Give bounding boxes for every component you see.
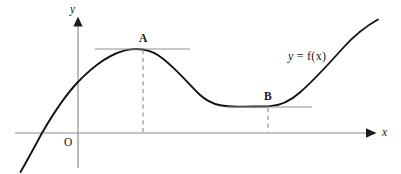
y-axis-label: y [70, 4, 75, 16]
point-label-a: A [139, 33, 148, 45]
point-label-b: B [264, 91, 272, 103]
origin-label: O [64, 137, 72, 149]
function-label-expression: f(x) [307, 49, 327, 63]
function-label-equals: = [294, 49, 307, 63]
function-graph-figure: y x O A B y=f(x) [0, 0, 401, 174]
function-curve [21, 20, 379, 173]
function-label-y: y [288, 49, 294, 63]
y-axis-arrowhead [73, 17, 82, 27]
function-equation-label: y=f(x) [288, 50, 327, 62]
x-axis-arrowhead [366, 128, 377, 138]
x-axis-label: x [382, 127, 387, 139]
graph-canvas [0, 0, 401, 174]
